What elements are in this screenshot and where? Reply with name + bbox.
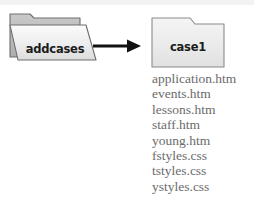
source-folder-label: addcases <box>8 43 102 56</box>
file-list-item: events.htm <box>152 86 252 101</box>
file-list: application.htm events.htm lessons.htm s… <box>152 71 252 194</box>
file-list-item: application.htm <box>152 71 252 86</box>
file-list-item: fstyles.css <box>152 148 252 163</box>
file-list-item: ystyles.css <box>152 179 252 194</box>
file-list-item: staff.htm <box>152 117 252 132</box>
folder-copy-diagram: addcases case1 application.htm events.ht… <box>0 0 254 205</box>
destination-folder-case1[interactable]: case1 <box>150 15 226 68</box>
file-list-item: lessons.htm <box>152 102 252 117</box>
destination-folder-label: case1 <box>150 41 226 54</box>
top-edge-band <box>0 0 254 5</box>
file-list-item: tstyles.css <box>152 163 252 178</box>
file-list-item: young.htm <box>152 133 252 148</box>
arrow-head <box>127 40 141 53</box>
right-arrow-icon <box>93 36 143 56</box>
copy-arrow <box>93 36 143 56</box>
